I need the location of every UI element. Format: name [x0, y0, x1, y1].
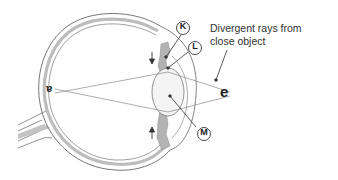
- light-rays: [55, 72, 230, 112]
- retina: [49, 24, 162, 160]
- label-m-text: M: [199, 127, 209, 137]
- caption-line-1: Divergent rays from: [210, 22, 330, 35]
- retinal-image-letter: a: [46, 84, 52, 96]
- caption-line-2: close object: [210, 35, 330, 48]
- caption: Divergent rays from close object: [210, 22, 330, 48]
- optic-nerve-band: [18, 124, 50, 139]
- label-l-text: L: [190, 41, 200, 51]
- sclera: [39, 14, 170, 171]
- object-letter: e: [220, 83, 228, 100]
- label-k-text: K: [178, 21, 188, 31]
